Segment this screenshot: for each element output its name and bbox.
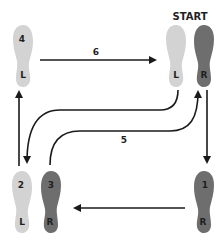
foot-side: R xyxy=(200,217,207,227)
step-number: 3 xyxy=(48,180,54,190)
step-number: 2 xyxy=(18,180,24,190)
start-label: START xyxy=(172,11,207,22)
arrow-start-left-to-2 xyxy=(27,90,178,162)
footprint-step-2: 2 L xyxy=(12,171,32,233)
foot-side: R xyxy=(201,70,208,80)
step-number: 4 xyxy=(19,34,25,44)
foot-side: L xyxy=(173,70,179,80)
foot-side: L xyxy=(20,70,26,80)
arrow-label-5: 5 xyxy=(121,135,127,145)
footprint-start-left: L xyxy=(166,25,186,87)
footstep-diagram: START 4 L L R 2 L 3 R 1 R 6 5 xyxy=(0,0,224,247)
step-number: 1 xyxy=(202,180,208,190)
arrow-label-6: 6 xyxy=(93,47,99,57)
footprint-step-4: 4 L xyxy=(13,25,33,87)
foot-side: L xyxy=(19,217,25,227)
foot-side: R xyxy=(47,217,54,227)
